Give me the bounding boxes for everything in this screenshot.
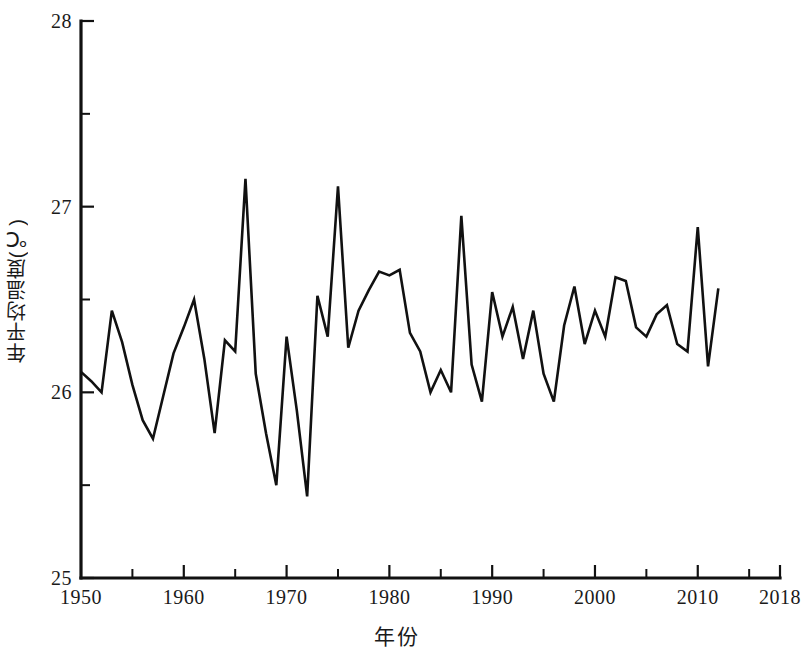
y-tick-label: 27 [26,195,72,218]
series-group [81,179,718,496]
y-axis-ticks [81,21,94,578]
x-tick-label: 1960 [163,586,205,609]
y-tick-label: 28 [26,10,72,33]
axes-group [81,21,780,578]
temperature-series-line [81,179,718,496]
x-tick-label: 1970 [266,586,308,609]
x-axis-ticks [132,565,780,578]
x-tick-label: 1950 [60,586,102,609]
x-axis-title: 年份 [0,620,793,650]
x-tick-label: 2010 [677,586,719,609]
y-axis-title: 年平均温度(℃) [6,218,46,363]
x-tick-label: 1990 [471,586,513,609]
x-tick-label: 2018 [759,586,801,609]
x-tick-label: 1980 [368,586,410,609]
y-tick-label: 26 [26,381,72,404]
x-tick-label: 2000 [574,586,616,609]
